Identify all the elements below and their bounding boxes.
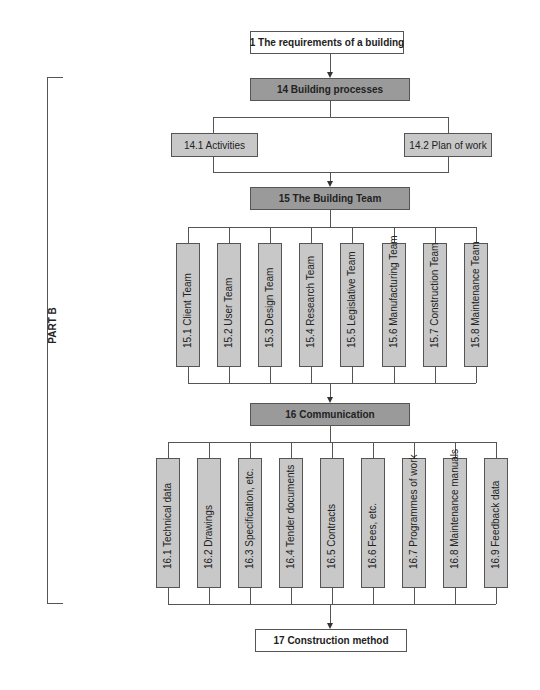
part-b-label: PART B bbox=[47, 307, 58, 343]
connector bbox=[188, 227, 189, 243]
connector bbox=[188, 227, 476, 228]
communication-box-label: 16.2 Drawings bbox=[203, 505, 215, 569]
connector bbox=[168, 588, 169, 604]
connector bbox=[250, 588, 251, 604]
connector bbox=[352, 227, 353, 243]
connector bbox=[188, 367, 189, 383]
connector bbox=[330, 210, 331, 227]
node-building-processes: 14 Building processes bbox=[250, 78, 410, 101]
connector bbox=[373, 588, 374, 604]
connector bbox=[213, 172, 449, 173]
node-requirements: 1 The requirements of a building bbox=[250, 31, 404, 54]
communication-box-label: 16.3 Specification, etc. bbox=[244, 468, 256, 569]
team-box: 15.6 Manufacturing Team bbox=[382, 243, 406, 367]
communication-box-label: 16.7 Programmes of work bbox=[408, 455, 420, 570]
team-box-label: 15.4 Research Team bbox=[305, 256, 317, 348]
connector bbox=[168, 442, 169, 458]
connector bbox=[332, 588, 333, 604]
part-b-bracket-top bbox=[47, 77, 63, 78]
connector bbox=[373, 442, 374, 458]
connector bbox=[209, 442, 210, 458]
team-box-label: 15.1 Client Team bbox=[182, 273, 194, 348]
connector bbox=[330, 101, 331, 117]
connector bbox=[311, 367, 312, 383]
connector bbox=[476, 367, 477, 383]
connector bbox=[311, 227, 312, 243]
connector bbox=[330, 54, 331, 72]
team-box-label: 15.8 Maintenance Team bbox=[470, 241, 482, 348]
communication-box: 16.9 Feedback data bbox=[484, 458, 508, 588]
team-box-label: 15.7 Construction Team bbox=[429, 243, 441, 348]
communication-box: 16.8 Maintenance manuals bbox=[443, 458, 467, 588]
connector bbox=[394, 367, 395, 383]
communication-box: 16.7 Programmes of work bbox=[402, 458, 426, 588]
node-construction-method: 17 Construction method bbox=[255, 629, 407, 652]
communication-box-label: 16.9 Feedback data bbox=[490, 481, 502, 569]
connector bbox=[291, 588, 292, 604]
connector bbox=[330, 426, 331, 442]
team-box-label: 15.2 User Team bbox=[223, 278, 235, 348]
team-box: 15.2 User Team bbox=[217, 243, 241, 367]
connector bbox=[414, 588, 415, 604]
connector bbox=[455, 588, 456, 604]
connector bbox=[496, 442, 497, 458]
team-box-label: 15.6 Manufacturing Team bbox=[388, 235, 400, 348]
communication-box: 16.2 Drawings bbox=[197, 458, 221, 588]
team-box: 15.3 Design Team bbox=[258, 243, 282, 367]
node-activities: 14.1 Activities bbox=[171, 133, 258, 157]
connector bbox=[435, 227, 436, 243]
connector bbox=[229, 367, 230, 383]
node-communication: 16 Communication bbox=[250, 403, 410, 426]
communication-box-label: 16.5 Contracts bbox=[326, 504, 338, 569]
communication-box: 16.6 Fees, etc. bbox=[361, 458, 385, 588]
connector bbox=[330, 172, 331, 181]
team-box: 15.1 Client Team bbox=[176, 243, 200, 367]
connector bbox=[352, 367, 353, 383]
connector bbox=[250, 442, 251, 458]
communication-box: 16.3 Specification, etc. bbox=[238, 458, 262, 588]
team-box-label: 15.5 Legislative Team bbox=[346, 251, 358, 348]
connector bbox=[168, 604, 496, 605]
connector bbox=[332, 442, 333, 458]
communication-box: 16.1 Technical data bbox=[156, 458, 180, 588]
connector bbox=[291, 442, 292, 458]
team-box: 15.5 Legislative Team bbox=[340, 243, 364, 367]
team-box: 15.4 Research Team bbox=[299, 243, 323, 367]
communication-box-label: 16.4 Tender documents bbox=[285, 465, 297, 569]
communication-box-label: 16.6 Fees, etc. bbox=[367, 503, 379, 569]
communication-box-label: 16.8 Maintenance manuals bbox=[449, 449, 461, 569]
connector bbox=[213, 117, 449, 118]
communication-box: 16.5 Contracts bbox=[320, 458, 344, 588]
connector bbox=[209, 588, 210, 604]
part-b-bracket-bottom bbox=[47, 603, 63, 604]
connector bbox=[188, 383, 476, 384]
team-box: 15.7 Construction Team bbox=[423, 243, 447, 367]
connector bbox=[496, 588, 497, 604]
communication-box: 16.4 Tender documents bbox=[279, 458, 303, 588]
connector bbox=[435, 367, 436, 383]
connector bbox=[270, 367, 271, 383]
node-plan-of-work: 14.2 Plan of work bbox=[404, 133, 492, 157]
connector bbox=[330, 383, 331, 397]
connector bbox=[229, 227, 230, 243]
connector bbox=[270, 227, 271, 243]
communication-box-label: 16.1 Technical data bbox=[162, 483, 174, 569]
team-box: 15.8 Maintenance Team bbox=[464, 243, 488, 367]
team-box-label: 15.3 Design Team bbox=[264, 268, 276, 348]
node-building-team: 15 The Building Team bbox=[250, 187, 410, 210]
connector bbox=[330, 604, 331, 623]
